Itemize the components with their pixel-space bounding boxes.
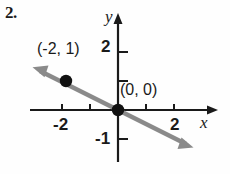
math-figure: 2. y x 2 -1 -2 2 (-2, 1) (0, 0) xyxy=(0,0,230,174)
data-point-origin xyxy=(112,104,124,116)
y-tick-label-2: 2 xyxy=(101,38,110,55)
x-axis-label: x xyxy=(200,114,208,131)
point-label-neg2-1: (-2, 1) xyxy=(37,41,80,57)
y-axis-arrowhead xyxy=(114,13,123,24)
x-axis-arrowhead xyxy=(207,106,218,115)
point-label-origin: (0, 0) xyxy=(120,82,157,98)
y-tick-label-neg1: -1 xyxy=(95,130,110,147)
x-tick-label-2: 2 xyxy=(170,116,179,133)
data-point-neg2-1 xyxy=(60,75,72,87)
x-tick-label-neg2: -2 xyxy=(53,116,68,133)
coordinate-plane-graph xyxy=(0,0,230,174)
y-axis-label: y xyxy=(105,8,113,25)
